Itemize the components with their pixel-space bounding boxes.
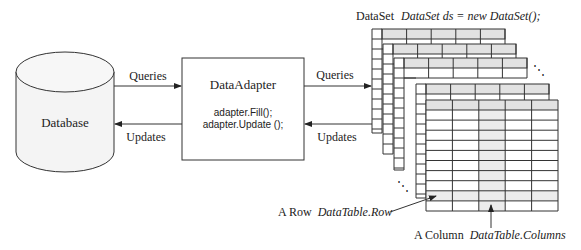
- database-cylinder: Database: [16, 52, 114, 172]
- dataset-caption-code: DataSet ds = new DataSet();: [400, 9, 540, 23]
- db-adapter-arrows: Queries Updates: [114, 69, 182, 144]
- data-table-layer: [426, 100, 568, 211]
- adapter-dataset-arrows: Queries Updates: [304, 68, 372, 144]
- queries-label-right: Queries: [316, 68, 354, 82]
- more-tables-ellipsis: ⋱: [533, 63, 545, 77]
- adapter-title: DataAdapter: [210, 77, 277, 92]
- highlighted-row: [426, 191, 558, 201]
- adapter-fill-code: adapter.Fill();: [214, 107, 272, 118]
- updates-label-right: Updates: [317, 130, 357, 144]
- column-annotation-prefix: A Column: [414, 228, 464, 242]
- column-annotation-code: DataTable.Columns: [469, 228, 566, 242]
- row-annotation-code: DataTable.Row: [317, 205, 393, 219]
- row-annotation: A Row DataTable.Row: [278, 196, 436, 219]
- more-rows-ellipsis: ⋱: [397, 179, 409, 193]
- ado-net-architecture-diagram: Database Queries Updates DataAdapter ada…: [0, 0, 581, 250]
- queries-label-left: Queries: [129, 69, 167, 83]
- adapter-update-code: adapter.Update ();: [203, 119, 284, 130]
- data-adapter-box: DataAdapter adapter.Fill(); adapter.Upda…: [182, 58, 304, 160]
- column-annotation-label: A Column DataTable.Columns: [414, 228, 566, 242]
- dataset-caption-prefix: DataSet: [356, 9, 395, 23]
- database-label: Database: [41, 115, 89, 130]
- row-annotation-prefix: A Row: [278, 205, 312, 219]
- updates-label-left: Updates: [126, 130, 166, 144]
- row-annotation-label: A Row DataTable.Row: [278, 205, 392, 219]
- dataset-caption: DataSet DataSet ds = new DataSet();: [356, 9, 540, 23]
